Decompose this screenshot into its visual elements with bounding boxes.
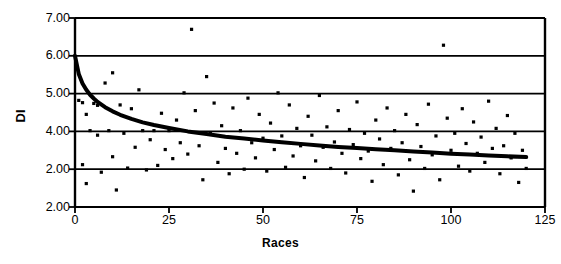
y-tick-label: 2.00 [18,201,70,214]
x-tick-label: 0 [55,214,95,227]
x-tick-label: 125 [525,214,561,227]
y-tick-label: 2.00 [18,163,70,176]
data-points [77,28,528,193]
x-tick-label-layer: 0255075100125 [0,214,561,234]
gridlines [75,18,545,207]
x-tick-label: 75 [337,214,377,227]
fit-curve [75,56,526,157]
y-tick-label: 6.00 [18,49,70,62]
x-tick-label: 100 [431,214,471,227]
chart-figure: 7.006.005.004.002.002.00 0255075100125 D… [0,0,561,264]
x-axis-title: Races [0,236,561,250]
x-tick-label: 25 [149,214,189,227]
x-tick-label: 50 [243,214,283,227]
y-tick-label: 7.00 [18,12,70,25]
y-axis-title: DI [0,96,40,136]
plot-frame [75,18,545,207]
